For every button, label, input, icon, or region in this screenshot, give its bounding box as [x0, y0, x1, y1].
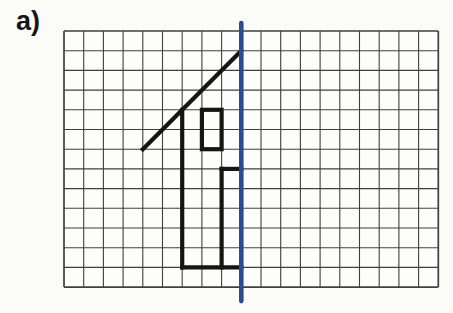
grid-diagram — [0, 0, 453, 313]
grid-background — [64, 31, 438, 287]
exercise-figure: a) — [0, 0, 453, 313]
